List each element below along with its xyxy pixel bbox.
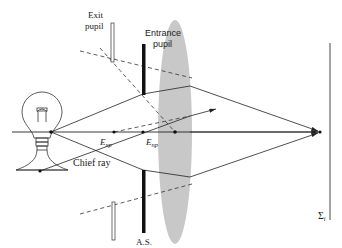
image-point: [318, 130, 321, 133]
aperture-stop-bottom: [142, 170, 146, 233]
entrance-pupil-label-2: pupil: [153, 39, 172, 49]
exit-pupil-label-1: Exit: [88, 10, 103, 20]
chief-ray-origin-point: [38, 169, 41, 172]
entrance-pupil-label-1: Entrance: [145, 28, 181, 38]
ezp-label: Exp: [99, 137, 112, 148]
aperture-stop-top: [142, 44, 146, 95]
image-plane-label: Σi: [318, 210, 326, 222]
enp-label: Enp: [145, 137, 159, 148]
exit-pupil-bottom: [112, 202, 115, 240]
aperture-stop-label: A.S.: [136, 237, 152, 247]
exit-pupil-label-2: pupil: [85, 21, 104, 31]
light-bulb-icon: [16, 92, 68, 170]
lens-center-point: [173, 130, 177, 134]
object-point: [49, 130, 53, 134]
ezp-point: [112, 130, 115, 133]
chief-ray-label: Chief ray: [73, 157, 111, 168]
optical-diagram: Exit pupil Entrance pupil Exp Enp Chief …: [0, 0, 342, 248]
exit-pupil-top: [111, 23, 114, 62]
enp-point: [141, 130, 144, 133]
